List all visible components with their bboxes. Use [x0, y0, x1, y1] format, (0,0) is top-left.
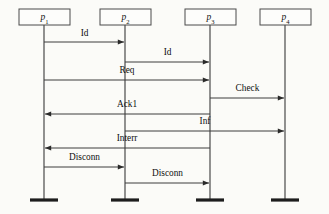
message-9-disconn[interactable]: Disconn [125, 168, 209, 186]
message-arrowhead [45, 112, 51, 117]
lifeline-p3: p3 [185, 9, 236, 200]
message-label: Check [236, 83, 260, 93]
message-4-check[interactable]: Check [210, 83, 284, 101]
message-arrowhead [118, 165, 124, 170]
message-arrowhead [203, 60, 209, 65]
message-label: Disconn [152, 168, 183, 178]
message-arrowhead [203, 181, 209, 186]
lifeline-p1: p1 [19, 9, 70, 200]
message-arrowhead [118, 40, 124, 45]
message-label: Id [164, 47, 172, 57]
message-6-inf[interactable]: Inf [125, 116, 284, 134]
message-arrowhead [203, 78, 209, 83]
message-arrowhead [278, 129, 284, 134]
sequence-diagram-svg: p1p2p3p4 IdIdReqCheckAck1InfInterrDiscon… [0, 0, 329, 214]
lifeline-p4: p4 [260, 9, 311, 200]
sequence-diagram-canvas: p1p2p3p4 IdIdReqCheckAck1InfInterrDiscon… [0, 0, 329, 214]
message-label: Id [81, 28, 89, 38]
message-label: Disconn [69, 152, 100, 162]
message-5-ack1[interactable]: Ack1 [45, 99, 210, 117]
message-label: Interr [117, 133, 139, 143]
message-label: Req [120, 65, 135, 75]
message-arrowhead [45, 146, 51, 151]
message-7-interr[interactable]: Interr [45, 133, 210, 151]
message-arrowhead [278, 96, 284, 101]
message-3-req[interactable]: Req [44, 65, 209, 83]
message-1-id[interactable]: Id [44, 28, 124, 45]
message-2-id[interactable]: Id [125, 47, 209, 65]
message-label: Ack1 [117, 99, 137, 109]
messages-layer: IdIdReqCheckAck1InfInterrDisconnDisconn [44, 28, 284, 186]
message-label: Inf [200, 116, 212, 126]
message-8-disconn[interactable]: Disconn [44, 152, 124, 170]
